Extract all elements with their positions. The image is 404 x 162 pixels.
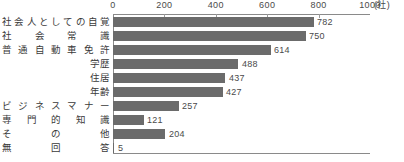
- bar: [113, 31, 306, 41]
- x-tick-label-400: 400: [208, 0, 224, 11]
- bar-value-label: 750: [309, 29, 325, 43]
- bar-value-label: 427: [226, 85, 242, 99]
- x-tick-label-200: 200: [156, 0, 172, 11]
- bar-row: 学歴 488: [0, 57, 404, 71]
- x-tick-label-0: 0: [110, 0, 115, 11]
- x-axis-unit-label: (社): [374, 0, 390, 11]
- bar: [113, 143, 114, 153]
- bar-row: 社会人としての自覚 782: [0, 15, 404, 29]
- bar: [113, 101, 179, 111]
- category-label: その他: [2, 127, 110, 141]
- bar-value-label: 121: [147, 113, 163, 127]
- bar-row: ビジネスマナー 257: [0, 99, 404, 113]
- bar-value-label: 204: [169, 127, 185, 141]
- category-label: 普通自動車免許: [2, 43, 110, 57]
- category-label: 無回答: [2, 141, 110, 155]
- x-tick-label-800: 800: [310, 0, 326, 11]
- x-axis: 0 200 400 600 800 1000 (社): [0, 0, 404, 14]
- bar: [113, 87, 223, 97]
- bar-row: 社会常識 750: [0, 29, 404, 43]
- category-label: 社会人としての自覚: [2, 15, 110, 29]
- category-label: ビジネスマナー: [2, 99, 110, 113]
- category-label: 年齢: [2, 85, 110, 99]
- category-label: 学歴: [2, 57, 110, 71]
- bar-row: 年齢 427: [0, 85, 404, 99]
- bar: [113, 59, 238, 69]
- bar-value-label: 614: [274, 43, 290, 57]
- bar: [113, 129, 165, 139]
- bar-row: 専門的知識 121: [0, 113, 404, 127]
- bar-value-label: 5: [118, 141, 123, 155]
- bar: [113, 73, 225, 83]
- bar-value-label: 488: [242, 57, 258, 71]
- bar: [113, 45, 271, 55]
- bar-chart: 0 200 400 600 800 1000 (社) 社会人としての自覚 782…: [0, 0, 404, 162]
- bar-value-label: 257: [182, 99, 198, 113]
- bar-row: 普通自動車免許 614: [0, 43, 404, 57]
- bar-row: 無回答 5: [0, 141, 404, 155]
- bar: [113, 115, 144, 125]
- bar-row: その他 204: [0, 127, 404, 141]
- category-label: 住居: [2, 71, 110, 85]
- bar: [113, 17, 314, 27]
- bar-value-label: 782: [317, 15, 333, 29]
- category-label: 専門的知識: [2, 113, 110, 127]
- x-tick-label-600: 600: [259, 0, 275, 11]
- category-label: 社会常識: [2, 29, 110, 43]
- bar-row: 住居 437: [0, 71, 404, 85]
- bar-value-label: 437: [229, 71, 245, 85]
